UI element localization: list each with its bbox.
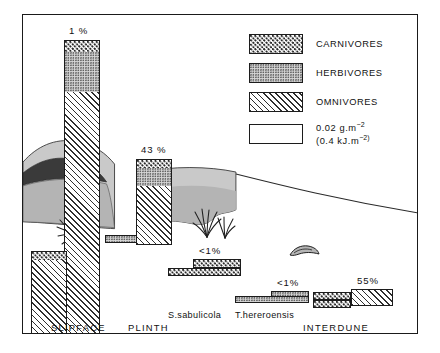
legend-item-carnivores: CARNIVORES xyxy=(249,34,417,54)
bar-interdune-carnivores xyxy=(313,292,351,300)
grass-tuft-icon xyxy=(191,203,237,239)
zone-label-slipface: SLIPFACE xyxy=(51,322,106,333)
scale-line2-exponent: −2) xyxy=(359,134,369,141)
bar-plinth-main xyxy=(136,159,172,245)
bar-segment-herbivores xyxy=(137,168,171,187)
species-label-s-sabulicola: S.sabulicola xyxy=(168,310,221,320)
bar-slipface-tall xyxy=(64,40,100,333)
bar-segment-omnivores xyxy=(137,186,171,244)
legend-swatch-carnivores xyxy=(249,34,303,54)
legend-item-herbivores: HERBIVORES xyxy=(249,63,417,83)
legend-label-omnivores: OMNIVORES xyxy=(316,97,378,108)
bar-interdune-omnivores xyxy=(351,289,393,306)
bar-interdune-herbivores xyxy=(313,300,351,308)
scale-line2: (0.4 kJ.m xyxy=(316,136,359,146)
bar-t-hereroensis-base xyxy=(235,296,309,303)
bar-label-t-hereroensis: <1% xyxy=(277,277,299,288)
bar-plinth-herbivore-strip xyxy=(105,235,137,243)
legend-label-carnivores: CARNIVORES xyxy=(316,39,383,50)
bar-segment-herbivores xyxy=(65,52,99,93)
interdune-ground-line xyxy=(236,174,417,213)
legend-label-herbivores: HERBIVORES xyxy=(316,68,382,79)
legend-item-omnivores: OMNIVORES xyxy=(249,92,417,112)
figure-root: 1 % 43 % <1% xyxy=(0,0,440,353)
bar-s-sabulicola-base xyxy=(168,268,241,276)
bar-segment-omnivores xyxy=(65,92,99,333)
species-label-t-hereroensis: T.hereroensis xyxy=(235,310,294,320)
scale-line1-exponent: −2 xyxy=(357,121,365,128)
plot-area: 1 % 43 % <1% xyxy=(23,15,417,333)
legend: CARNIVORES HERBIVORES OMNIVORES 0.02 g.m… xyxy=(249,34,417,156)
figure-frame: 1 % 43 % <1% xyxy=(22,14,418,334)
legend-label-scale: 0.02 g.m−2 (0.4 kJ.m−2) xyxy=(316,121,370,147)
bar-slipface-lower xyxy=(31,251,67,333)
scale-line1: 0.02 g.m xyxy=(316,123,357,133)
zone-label-interdune: INTERDUNE xyxy=(303,322,369,333)
bar-label-interdune: 55% xyxy=(357,275,379,286)
bar-label-slipface-tall: 1 % xyxy=(69,25,88,36)
bar-label-s-sabulicola: <1% xyxy=(199,245,221,256)
zone-label-plinth: PLINTH xyxy=(128,322,169,333)
beetle-icon xyxy=(287,243,321,259)
bar-label-plinth-main: 43 % xyxy=(141,144,166,155)
legend-swatch-scale xyxy=(249,124,303,144)
legend-swatch-herbivores xyxy=(249,63,303,83)
legend-item-scale: 0.02 g.m−2 (0.4 kJ.m−2) xyxy=(249,121,417,147)
legend-swatch-omnivores xyxy=(249,92,303,112)
bar-s-sabulicola-carnivores xyxy=(193,259,241,268)
